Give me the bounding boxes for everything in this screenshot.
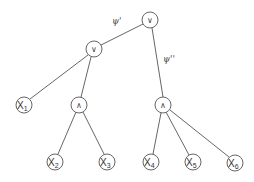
edge-andright-x6 [170,110,229,157]
edge-andleft-x2 [58,112,76,154]
leaf-x3: X3 [99,154,115,170]
leaf-x6: X6 [227,155,243,171]
edge-root-andright [152,28,163,97]
edge-andright-x5 [166,112,189,155]
edge-andright-x4 [153,113,161,154]
edge-orleft-x1 [30,55,88,99]
edge-label-psi-prime: ψ' [112,16,122,26]
leaf-x1: X1 [16,97,32,113]
svg-text:∧: ∧ [160,101,166,110]
svg-text:∨: ∨ [91,45,97,54]
node-or-left: ∨ [86,41,102,57]
node-and-left: ∧ [71,97,87,113]
node-root-or: ∨ [142,12,158,28]
edge-andleft-x3 [83,112,104,154]
tree-diagram: ψ' ψ'' ∨ ∨ ∧ ∧ X1 X2 X3 X4 X5 X6 [0,0,254,182]
svg-text:∧: ∧ [76,101,82,110]
node-and-right: ∧ [155,97,171,113]
edge-orleft-andleft [81,57,91,97]
svg-text:∨: ∨ [147,16,153,25]
edge-root-orleft [101,24,143,45]
leaf-x5: X5 [185,154,201,170]
edge-label-psi-double-prime: ψ'' [163,54,175,64]
leaf-x4: X4 [143,154,159,170]
leaf-x2: X2 [47,154,63,170]
